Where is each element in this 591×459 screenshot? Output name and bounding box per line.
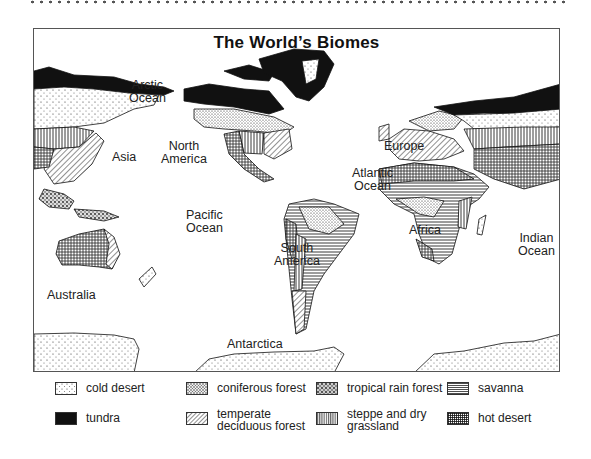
hot-desert-swatch-icon (447, 412, 469, 425)
label-antarctica: Antarctica (227, 338, 283, 351)
legend-item-coniferous-forest: coniferous forest (186, 382, 306, 395)
label-south-america: South America (274, 242, 320, 268)
legend-item-steppe-and-dry-grassland: steppe and dry grassland (316, 408, 426, 432)
label-australia: Australia (47, 289, 96, 302)
label-europe: Europe (384, 140, 424, 153)
label-arctic-ocean: Arctic Ocean (129, 79, 166, 105)
legend-item-savanna: savanna (447, 382, 523, 395)
steppe-and-dry-grassland-swatch-icon (316, 412, 338, 425)
legend-item-tropical-rain-forest: tropical rain forest (316, 382, 442, 395)
label-north-america: North America (161, 140, 207, 166)
tundra-swatch-icon (55, 412, 77, 425)
tropical-rain-forest-swatch-icon (316, 382, 338, 395)
map-title: The World’s Biomes (34, 33, 559, 53)
savanna-swatch-icon (447, 382, 469, 395)
legend-item-tundra: tundra (55, 412, 120, 425)
label-africa: Africa (409, 224, 441, 237)
cold-desert-swatch-icon (55, 382, 77, 395)
map-frame: The World’s Biomes Arctic Ocean Asia Nor… (33, 28, 560, 372)
legend-item-cold-desert: cold desert (55, 382, 145, 395)
legend-item-hot-desert: hot desert (447, 412, 531, 425)
coniferous-forest-swatch-icon (186, 382, 208, 395)
label-pacific-ocean: Pacific Ocean (186, 209, 223, 235)
label-atlantic-ocean: Atlantic Ocean (352, 167, 393, 193)
world-biome-map (34, 29, 560, 372)
label-indian-ocean: Indian Ocean (518, 232, 555, 258)
dotted-divider (28, 0, 568, 4)
legend-item-temperate-deciduous-forest: temperate deciduous forest (186, 408, 305, 432)
label-asia: Asia (112, 151, 136, 164)
temperate-deciduous-forest-swatch-icon (186, 412, 208, 425)
